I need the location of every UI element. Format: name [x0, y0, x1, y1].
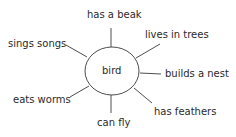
branch-label: lives in trees [145, 29, 209, 41]
line-eats-worms [70, 86, 89, 97]
line-lives-in-trees [136, 44, 160, 58]
branch-label: has feathers [154, 106, 216, 118]
bird-mind-map: bird has a beak lives in trees builds a … [0, 0, 236, 137]
branch-label: builds a nest [165, 68, 229, 80]
center-label: bird [102, 65, 121, 77]
branch-label: sings songs [8, 38, 66, 50]
line-builds-a-nest [140, 73, 161, 74]
branch-label: eats worms [13, 94, 71, 106]
branch-label: can fly [97, 117, 130, 129]
line-has-feathers [134, 88, 152, 103]
line-sings-songs [66, 45, 87, 57]
branch-label: has a beak [87, 9, 142, 21]
